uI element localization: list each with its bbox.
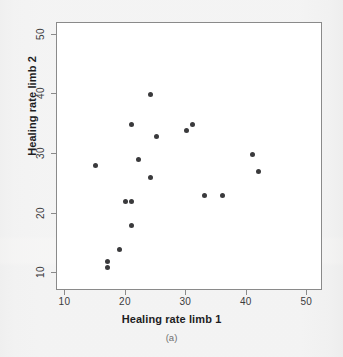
data-point [105,259,110,264]
data-point [93,163,98,168]
plot-area [56,22,322,290]
y-tick [51,93,56,94]
data-point [148,92,153,97]
y-tick [51,153,56,154]
data-point [256,169,261,174]
x-tick-label: 30 [179,296,191,307]
y-tick-label: 30 [35,145,46,161]
data-point [129,122,134,127]
y-tick [51,213,56,214]
y-tick-label: 40 [35,85,46,101]
x-tick-label: 50 [300,296,312,307]
y-tick [51,34,56,35]
data-point [190,122,195,127]
x-tick [64,290,65,295]
data-point [136,157,141,162]
data-point [117,247,122,252]
y-axis-label: Healing rate limb 2 [26,16,38,196]
scatter-plot-figure: Healing rate limb 1 Healing rate limb 2 … [0,0,343,357]
x-tick [306,290,307,295]
data-point [129,199,134,204]
data-point [123,199,128,204]
data-point [220,193,225,198]
data-point [202,193,207,198]
x-tick-label: 40 [240,296,252,307]
y-tick-label: 20 [35,205,46,221]
data-point [154,134,159,139]
x-tick [185,290,186,295]
x-tick-label: 10 [59,296,71,307]
y-tick-label: 50 [35,26,46,42]
data-point [148,175,153,180]
data-point [184,128,189,133]
data-point [105,265,110,270]
y-tick-label: 10 [35,264,46,280]
x-tick-label: 20 [119,296,131,307]
data-point [129,223,134,228]
figure-caption: (a) [0,332,343,343]
y-tick [51,272,56,273]
x-tick [246,290,247,295]
x-tick [125,290,126,295]
data-point [250,152,255,157]
x-axis-label: Healing rate limb 1 [0,313,343,325]
